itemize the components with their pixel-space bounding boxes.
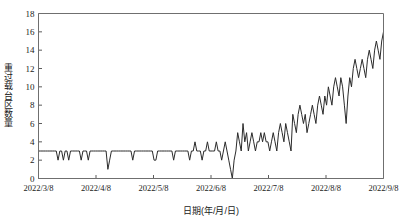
series-line-overload-count	[39, 32, 384, 179]
y-axis-title-char: 量	[4, 118, 13, 128]
x-tick-label: 2022/7/8	[253, 183, 283, 193]
x-tick-label: 2022/5/8	[138, 183, 168, 193]
y-tick-label: 8	[30, 100, 35, 110]
x-tick-label: 2022/4/8	[81, 183, 111, 193]
y-tick-label: 16	[26, 27, 36, 37]
y-tick-label: 12	[26, 64, 35, 74]
chart-container: 024681012141618 2022/3/82022/4/82022/5/8…	[0, 0, 405, 223]
plot-frame	[39, 14, 384, 179]
y-tick-label: 18	[26, 9, 36, 19]
y-tick-label: 10	[26, 82, 36, 92]
y-tick-label: 6	[30, 119, 35, 129]
y-tick-label: 2	[30, 155, 35, 165]
x-tick-label: 2022/3/8	[23, 183, 53, 193]
y-axis-ticks: 024681012141618	[26, 9, 43, 184]
x-axis-ticks: 2022/3/82022/4/82022/5/82022/6/82022/7/8…	[23, 175, 398, 193]
y-axis-title: 重过载台区数量	[4, 62, 13, 128]
line-chart: 024681012141618 2022/3/82022/4/82022/5/8…	[0, 0, 405, 223]
y-tick-label: 14	[26, 45, 36, 55]
x-axis-title: 日期(年/月/日)	[183, 205, 239, 216]
y-tick-label: 4	[30, 137, 35, 147]
x-tick-label: 2022/6/8	[196, 183, 226, 193]
x-tick-label: 2022/8/8	[311, 183, 341, 193]
x-tick-label: 2022/9/8	[368, 183, 398, 193]
